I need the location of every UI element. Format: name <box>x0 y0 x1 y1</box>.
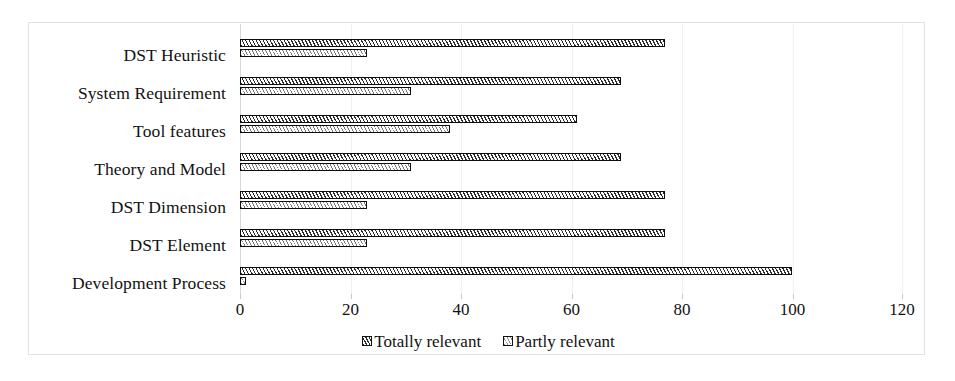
bar-partly-relevant-theory-and-model[interactable] <box>240 163 411 171</box>
category-label-tool-features: Tool features <box>26 123 226 141</box>
bar-totally-relevant-system-requirement[interactable] <box>240 77 621 85</box>
bar-partly-relevant-dst-heuristic[interactable] <box>240 49 367 57</box>
bar-partly-relevant-tool-features[interactable] <box>240 125 450 133</box>
bar-totally-relevant-theory-and-model[interactable] <box>240 153 621 161</box>
category-label-dst-heuristic: DST Heuristic <box>26 47 226 65</box>
plot-area <box>240 24 903 294</box>
tick-mark-120 <box>902 294 903 299</box>
category-label-dst-dimension: DST Dimension <box>26 199 226 217</box>
bar-totally-relevant-dst-element[interactable] <box>240 229 665 237</box>
category-label-development-process: Development Process <box>26 275 226 293</box>
tick-label-40: 40 <box>453 301 470 318</box>
legend-swatch-totally-relevant-icon <box>362 336 372 346</box>
tick-label-60: 60 <box>563 301 580 318</box>
tick-label-20: 20 <box>342 301 359 318</box>
tick-label-100: 100 <box>780 301 806 318</box>
category-label-dst-element: DST Element <box>26 237 226 255</box>
tick-mark-40 <box>461 294 462 299</box>
bar-totally-relevant-development-process[interactable] <box>240 267 792 275</box>
tick-label-0: 0 <box>236 301 245 318</box>
tick-mark-20 <box>351 294 352 299</box>
bar-totally-relevant-tool-features[interactable] <box>240 115 577 123</box>
bar-partly-relevant-dst-dimension[interactable] <box>240 201 367 209</box>
gridline-100 <box>793 24 794 294</box>
chart-legend: Totally relevant Partly relevant <box>29 328 926 354</box>
bar-totally-relevant-dst-dimension[interactable] <box>240 191 665 199</box>
legend-swatch-partly-relevant-icon <box>503 336 513 346</box>
legend-label-totally-relevant: Totally relevant <box>374 333 481 350</box>
tick-mark-60 <box>572 294 573 299</box>
value-axis: 0 20 40 60 80 100 120 <box>240 294 903 328</box>
bar-partly-relevant-system-requirement[interactable] <box>240 87 411 95</box>
legend-item-totally-relevant[interactable]: Totally relevant <box>362 333 481 350</box>
legend-item-partly-relevant[interactable]: Partly relevant <box>503 333 615 350</box>
tick-mark-0 <box>240 294 241 299</box>
category-label-system-requirement: System Requirement <box>26 85 226 103</box>
tick-label-120: 120 <box>889 301 915 318</box>
gridline-80 <box>682 24 683 294</box>
bar-partly-relevant-dst-element[interactable] <box>240 239 367 247</box>
category-label-theory-and-model: Theory and Model <box>26 161 226 179</box>
chart-frame: DST Heuristic System Requirement Tool fe… <box>28 22 925 355</box>
tick-label-80: 80 <box>674 301 691 318</box>
bar-partly-relevant-development-process[interactable] <box>240 277 246 285</box>
legend-label-partly-relevant: Partly relevant <box>515 333 615 350</box>
gridline-120 <box>902 24 903 294</box>
category-axis: DST Heuristic System Requirement Tool fe… <box>29 23 234 295</box>
tick-mark-100 <box>793 294 794 299</box>
bar-totally-relevant-dst-heuristic[interactable] <box>240 39 665 47</box>
tick-mark-80 <box>682 294 683 299</box>
